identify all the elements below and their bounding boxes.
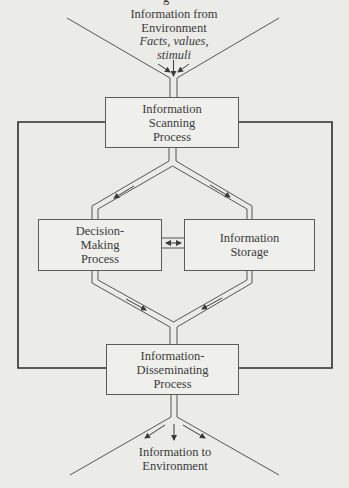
node-decision-line3: Process	[81, 252, 119, 266]
input-label-line1: Information from	[110, 8, 238, 22]
node-disseminating-line2: Disseminating	[136, 363, 208, 377]
input-label-line4: stimuli	[110, 49, 238, 63]
node-storage-line1: Information	[220, 231, 280, 245]
node-disseminating-line1: Information-	[141, 349, 205, 363]
input-label-line3: Facts, values,	[110, 35, 238, 49]
node-decision-making: Decision- Making Process	[38, 219, 162, 271]
node-scanning-line1: Information	[142, 102, 202, 116]
node-information-disseminating: Information- Disseminating Process	[106, 344, 239, 395]
lower-pipes	[92, 271, 252, 344]
input-label-line2: Environment	[110, 22, 238, 36]
node-decision-line2: Making	[81, 238, 120, 252]
truncated-heading-text: g	[163, 0, 169, 6]
node-scanning-line3: Process	[153, 130, 191, 144]
node-disseminating-line3: Process	[153, 377, 191, 391]
node-decision-line1: Decision-	[76, 224, 125, 238]
node-storage-line2: Storage	[230, 245, 268, 259]
output-label: Information to Environment	[115, 446, 235, 473]
input-label: Information from Environment Facts, valu…	[110, 8, 238, 62]
output-label-line1: Information to	[115, 446, 235, 460]
diagram-canvas: g Information from Environment Facts, va…	[0, 0, 349, 488]
upper-pipes	[92, 148, 252, 219]
output-label-line2: Environment	[115, 460, 235, 474]
node-scanning-line2: Scanning	[149, 116, 196, 130]
node-information-storage: Information Storage	[184, 219, 315, 271]
node-information-scanning: Information Scanning Process	[105, 97, 239, 148]
upper-flow-arrows	[114, 185, 230, 198]
